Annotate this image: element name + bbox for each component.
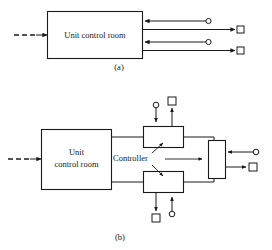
block-diagram-svg: Unit control room (a) Unit [0,0,272,250]
panel-a-unit-control-room-label: Unit control room [64,30,126,40]
panel-b-lower-controller-circle-input [169,211,175,217]
panel-b-unit-control-room-label-line1: Unit [69,147,85,157]
panel-a-lower-square-terminator [237,47,244,54]
panel-b-upper-controller-circle-input [153,102,159,108]
panel-b-upper-controller-block [144,127,184,148]
panel-b: Unit control room [8,97,259,242]
panel-b-unit-control-room-label-line2: control room [54,159,99,169]
panel-a-caption: (a) [114,62,124,72]
figure-container: Unit control room (a) Unit [0,0,272,250]
panel-a-upper-circle-terminator [206,18,211,23]
panel-b-summing-circle-input [253,149,259,155]
panel-a-upper-square-terminator [237,26,244,33]
panel-b-summing-block [209,141,226,179]
panel-a: Unit control room (a) [14,12,244,72]
panel-b-summing-square-output [249,163,257,171]
panel-b-caption: (b) [115,232,125,242]
panel-b-controller-label: Controller [113,153,148,163]
panel-b-upper-controller-square-output [168,97,176,105]
panel-b-lower-controller-square-output [152,214,160,222]
panel-a-lower-circle-terminator [206,39,211,44]
panel-b-lower-controller-block [144,172,184,193]
